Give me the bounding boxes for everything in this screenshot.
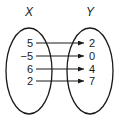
domain-value: 5 [27,37,33,49]
domain-label: X [24,5,34,19]
range-value: 0 [89,50,95,62]
range-value: 4 [89,63,95,75]
range-label: Y [86,5,95,19]
mapping-diagram: X Y 5 −5 6 2 2 0 4 7 [0,0,119,118]
domain-value: −5 [20,50,33,62]
domain-value: 6 [27,63,33,75]
domain-value: 2 [27,75,33,87]
range-value: 7 [89,75,95,87]
range-value: 2 [89,37,95,49]
